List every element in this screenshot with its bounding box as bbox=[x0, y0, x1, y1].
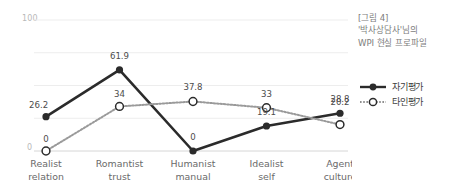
x-tick-label: Humanist bbox=[171, 158, 216, 169]
svg-text:34: 34 bbox=[114, 89, 125, 99]
figure-container: 100 0 26.261.9019.128.803437.83320.2 Rea… bbox=[0, 0, 458, 190]
x-tick-label: Realist bbox=[30, 158, 62, 169]
svg-text:37.8: 37.8 bbox=[183, 82, 202, 92]
legend-solid-line-filled-circle-icon bbox=[358, 79, 388, 93]
line-chart-svg: 26.261.9019.128.803437.83320.2 Realistre… bbox=[0, 0, 352, 190]
legend-item-self[interactable]: 자기평가 bbox=[358, 78, 456, 93]
x-tick-label: relation bbox=[28, 171, 64, 182]
legend-item-other[interactable]: 타인평가 bbox=[358, 93, 456, 108]
x-tick-label: manual bbox=[175, 171, 210, 182]
chart-area: 100 0 26.261.9019.128.803437.83320.2 Rea… bbox=[0, 0, 352, 190]
x-tick-label: Idealist bbox=[250, 158, 284, 169]
svg-text:0: 0 bbox=[43, 134, 48, 144]
x-tick-label: trust bbox=[108, 171, 130, 182]
svg-text:61.9: 61.9 bbox=[110, 51, 129, 61]
x-tick-label: Agent bbox=[326, 158, 352, 169]
x-tick-label: culture bbox=[324, 171, 352, 182]
caption-line-3: WPI 현실 프로파일 bbox=[358, 37, 456, 49]
caption-line-1: [그림 4] bbox=[358, 12, 456, 24]
legend-dotted-line-open-circle-icon bbox=[358, 94, 388, 108]
x-tick-label: self bbox=[258, 171, 275, 182]
svg-text:20.2: 20.2 bbox=[330, 97, 349, 107]
svg-text:33: 33 bbox=[261, 89, 272, 99]
svg-text:0: 0 bbox=[190, 132, 195, 142]
legend-label-self: 자기평가 bbox=[392, 79, 423, 93]
svg-text:26.2: 26.2 bbox=[29, 100, 48, 110]
caption-line-2: '박사상담사'님의 bbox=[358, 24, 456, 36]
chart-legend: 자기평가 타인평가 bbox=[358, 78, 456, 108]
svg-text:19.1: 19.1 bbox=[257, 107, 276, 117]
legend-label-other: 타인평가 bbox=[392, 94, 423, 108]
x-tick-label: Romantist bbox=[96, 158, 144, 169]
x-axis-ticks-group: RealistrelationRomantisttrustHumanistman… bbox=[28, 158, 352, 182]
figure-caption: [그림 4] '박사상담사'님의 WPI 현실 프로파일 bbox=[358, 12, 456, 49]
